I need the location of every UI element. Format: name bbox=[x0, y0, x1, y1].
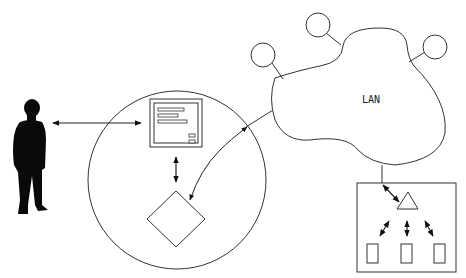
lan-node-circle bbox=[423, 35, 447, 59]
remote-unit-rect bbox=[434, 244, 445, 263]
person-silhouette-icon bbox=[13, 99, 48, 214]
lan-system-link bbox=[246, 110, 273, 127]
remote-unit-rect bbox=[401, 244, 412, 263]
lan-node-circle bbox=[251, 43, 275, 67]
form-window-icon bbox=[150, 99, 202, 147]
lan-cloud bbox=[272, 28, 446, 165]
lan-node-circle bbox=[306, 13, 330, 37]
lan-label: LAN bbox=[362, 94, 380, 105]
decision-diamond bbox=[147, 191, 205, 247]
diagram-canvas: LAN bbox=[0, 0, 466, 278]
remote-unit-rect bbox=[367, 244, 378, 263]
